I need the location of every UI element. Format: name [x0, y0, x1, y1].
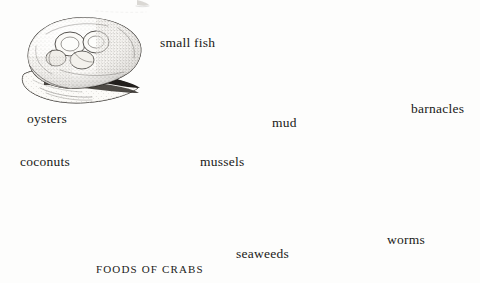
plate-title: FOODS OF CRABS: [96, 264, 204, 275]
label-barnacles: barnacles: [411, 102, 464, 116]
label-mud: mud: [272, 116, 297, 130]
label-worms: worms: [387, 233, 425, 247]
label-small-fish: small fish: [160, 36, 215, 50]
label-mussels: mussels: [200, 155, 245, 169]
label-coconuts: coconuts: [20, 155, 70, 169]
label-oysters: oysters: [27, 112, 67, 126]
label-seaweeds: seaweeds: [236, 247, 289, 261]
